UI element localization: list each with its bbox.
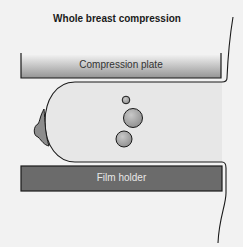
film-holder-label: Film holder [21, 172, 222, 183]
compression-plate-label: Compression plate [20, 59, 222, 70]
lesion-medium [116, 131, 132, 147]
lesion-small [122, 96, 130, 104]
compression-diagram [0, 0, 243, 247]
lesion-large [124, 109, 143, 128]
